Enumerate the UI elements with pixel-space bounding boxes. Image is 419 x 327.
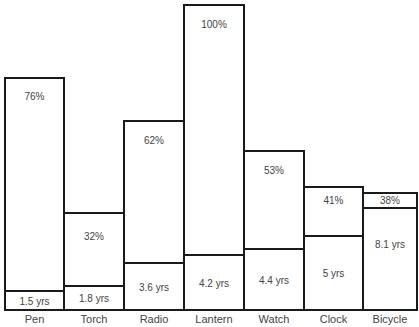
category-label-pen: Pen: [4, 313, 65, 325]
pct-label: 100%: [185, 19, 243, 30]
bar-clock: 41% 5 yrs: [303, 186, 364, 311]
chart: 76% 1.5 yrs 32% 1.8 yrs 62% 3.6 yrs 100%…: [0, 0, 419, 327]
pct-label: 38%: [364, 195, 416, 206]
bar-torch: 32% 1.8 yrs: [63, 212, 125, 311]
yrs-label: 3.6 yrs: [125, 281, 183, 292]
yrs-label: 4.4 yrs: [245, 274, 303, 285]
years-segment: 1.5 yrs: [4, 290, 65, 311]
yrs-label: 5 yrs: [305, 268, 362, 279]
bar-lantern: 100% 4.2 yrs: [183, 4, 245, 311]
category-label-lantern: Lantern: [183, 313, 245, 325]
pct-label: 32%: [65, 231, 123, 242]
bar-pen: 76% 1.5 yrs: [4, 77, 65, 311]
yrs-label: 1.5 yrs: [6, 295, 63, 306]
category-label-watch: Watch: [243, 313, 305, 325]
yrs-label: 1.8 yrs: [65, 293, 123, 304]
bar-radio: 62% 3.6 yrs: [123, 120, 185, 311]
years-segment: 4.2 yrs: [183, 254, 245, 311]
category-label-clock: Clock: [303, 313, 364, 325]
category-label-radio: Radio: [123, 313, 185, 325]
years-segment: 8.1 yrs: [362, 207, 418, 311]
years-segment: 4.4 yrs: [243, 248, 305, 311]
years-segment: 5 yrs: [303, 235, 364, 311]
bar-watch: 53% 4.4 yrs: [243, 150, 305, 311]
pct-label: 53%: [245, 165, 303, 176]
category-label-bicycle: Bicycle: [362, 313, 418, 325]
pct-label: 41%: [305, 195, 362, 206]
bar-bicycle: 38% 8.1 yrs: [362, 192, 418, 311]
yrs-label: 8.1 yrs: [364, 239, 416, 250]
category-label-torch: Torch: [63, 313, 125, 325]
pct-label: 62%: [125, 135, 183, 146]
yrs-label: 4.2 yrs: [185, 277, 243, 288]
years-segment: 1.8 yrs: [63, 285, 125, 311]
years-segment: 3.6 yrs: [123, 262, 185, 311]
pct-label: 76%: [6, 91, 63, 102]
